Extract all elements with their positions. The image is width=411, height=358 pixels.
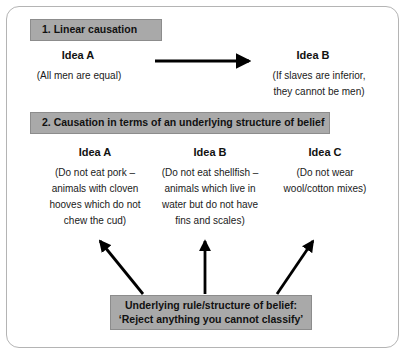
section-2-idea-c-body: (Do not wear wool/cotton mixes) (262, 165, 388, 197)
section-1-idea-a-body: (All men are equal) (8, 68, 150, 84)
text-line: chew the cud) (32, 213, 158, 229)
text-line: animals which live in (147, 181, 273, 197)
section-1-idea-a-label: Idea A (18, 49, 138, 61)
underlying-rule-line-1: Underlying rule/structure of belief: (111, 299, 311, 312)
underlying-rule-line-2: ‘Reject anything you cannot classify’ (111, 313, 311, 326)
text-line: animals with cloven (32, 181, 158, 197)
text-line: water but do not have (147, 197, 273, 213)
text-line: hooves which do not (32, 197, 158, 213)
section-2-header: 2. Causation in terms of an underlying s… (30, 112, 330, 134)
text-line: (Do not wear (262, 165, 388, 181)
text-line: they cannot be men) (246, 84, 392, 100)
text-line: (Do not eat shellfish – (147, 165, 273, 181)
text-line: wool/cotton mixes) (262, 181, 388, 197)
section-2-idea-a-label: Idea A (35, 146, 155, 158)
text-line: (If slaves are inferior, (246, 68, 392, 84)
section-2-idea-c-label: Idea C (265, 146, 385, 158)
text-line: fins and scales) (147, 213, 273, 229)
section-2-idea-a-body: (Do not eat pork – animals with cloven h… (32, 165, 158, 229)
underlying-rule-box: Underlying rule/structure of belief: ‘Re… (110, 295, 312, 330)
text-line: (All men are equal) (8, 68, 150, 84)
section-2-idea-b-label: Idea B (150, 146, 270, 158)
section-1-header: 1. Linear causation (30, 19, 162, 41)
section-1-idea-b-label: Idea B (253, 49, 373, 61)
causation-diagram: 1. Linear causation Idea A (All men are … (0, 0, 411, 358)
section-2-idea-b-body: (Do not eat shellfish – animals which li… (147, 165, 273, 229)
text-line: (Do not eat pork – (32, 165, 158, 181)
section-1-idea-b-body: (If slaves are inferior, they cannot be … (246, 68, 392, 100)
